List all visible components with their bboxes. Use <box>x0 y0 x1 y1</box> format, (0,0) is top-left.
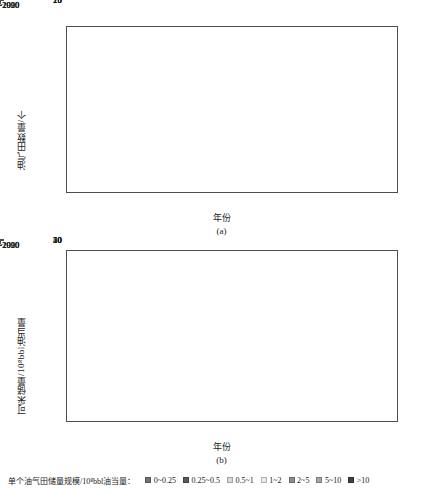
x-axis-title-b: 年份 <box>0 440 443 453</box>
chart-legend: 单个油气田储量规模/10⁸bbl油当量： 0~0.250.25~0.50.5~1… <box>0 470 443 490</box>
legend-swatch <box>261 477 267 483</box>
legend-swatch <box>145 477 151 483</box>
legend-label: 2~5 <box>297 476 309 485</box>
legend-title: 单个油气田储量规模/10⁸bbl油当量： <box>8 475 135 486</box>
legend-swatch <box>289 477 295 483</box>
y-axis-title-b: 可采储量/10⁸bbl油当量 <box>14 264 27 414</box>
x-tick-label: 2011~2020 <box>0 0 19 10</box>
figure-root: 油气田数量/个 0510152025 1981~19901991~2000200… <box>0 0 443 493</box>
legend-label: 0.5~1 <box>235 476 253 485</box>
panel-caption-a: (a) <box>0 226 443 236</box>
y-tick-label: 25 <box>53 0 62 5</box>
legend-label: 1~2 <box>269 476 281 485</box>
plot-area-b <box>66 250 398 422</box>
legend-item: 5~10 <box>316 476 341 485</box>
legend-label: 0~0.25 <box>154 476 176 485</box>
legend-item: >10 <box>348 476 369 485</box>
legend-item: 0~0.25 <box>145 476 176 485</box>
legend-swatch <box>316 477 322 483</box>
legend-items: 0~0.250.25~0.50.5~11~22~55~10>10 <box>138 476 369 485</box>
legend-swatch <box>183 477 189 483</box>
x-tick-mark <box>0 0 1 4</box>
x-axis-title-a: 年份 <box>0 211 443 224</box>
legend-item: 2~5 <box>289 476 310 485</box>
legend-item: 0.25~0.5 <box>183 476 220 485</box>
legend-label: >10 <box>357 476 370 485</box>
legend-label: 5~10 <box>325 476 341 485</box>
plot-area-a <box>66 26 398 193</box>
legend-item: 1~2 <box>261 476 282 485</box>
y-axis-title-a: 油气田数量/个 <box>14 40 27 170</box>
panel-caption-b: (b) <box>0 455 443 465</box>
x-tick-mark <box>0 240 1 244</box>
legend-label: 0.25~0.5 <box>192 476 220 485</box>
chart-panel-b: 可采储量/10⁸bbl油当量 01020304050 1981~19901991… <box>0 240 443 455</box>
y-tick-label: 50 <box>53 235 62 245</box>
x-tick-label: 2011~2020 <box>0 240 19 250</box>
chart-panel-a: 油气田数量/个 0510152025 1981~19901991~2000200… <box>0 0 443 240</box>
legend-swatch <box>348 477 354 483</box>
legend-item: 0.5~1 <box>227 476 254 485</box>
legend-swatch <box>227 477 233 483</box>
